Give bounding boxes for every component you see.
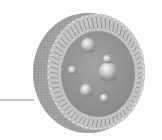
lipid-head — [97, 117, 100, 120]
lipid-head — [53, 97, 56, 100]
lipid-head — [60, 60, 63, 63]
lipid-head — [95, 127, 98, 130]
lipid-head — [129, 48, 132, 51]
lipid-head — [141, 82, 144, 85]
lipid-head — [72, 21, 75, 24]
lipid-head — [104, 15, 107, 18]
lipid-head — [75, 36, 78, 39]
lipid-head — [53, 44, 56, 47]
lipid-head — [108, 30, 111, 33]
lipid-head — [58, 77, 61, 80]
particle-sphere — [100, 94, 108, 102]
lipid-head — [104, 126, 107, 129]
lipid-head — [81, 16, 84, 19]
lipid-head — [141, 59, 144, 62]
lipid-head — [85, 15, 88, 18]
lipid-head — [124, 41, 127, 44]
lipid-head — [61, 31, 64, 34]
lipid-head — [81, 125, 84, 128]
particle-sphere — [99, 62, 117, 80]
lipid-head — [117, 120, 120, 123]
lipid-head — [113, 123, 116, 126]
lipid-head — [134, 81, 137, 84]
lipid-head — [142, 76, 145, 79]
lipid-head — [142, 71, 145, 74]
lipid-head — [95, 14, 98, 17]
lipid-head — [65, 48, 68, 51]
lipid-head — [140, 54, 143, 57]
lipid-head — [72, 120, 75, 123]
particle-sphere — [80, 84, 92, 96]
lipid-head — [63, 94, 66, 97]
lipid-head — [134, 86, 137, 89]
lipid-head — [117, 21, 120, 24]
lipid-head — [64, 27, 67, 30]
lipid-head — [100, 117, 103, 120]
lipid-head — [47, 71, 50, 74]
lipid-head — [76, 18, 79, 21]
particle-sphere — [68, 66, 76, 74]
lipid-head — [68, 24, 71, 27]
lipid-head — [86, 30, 89, 33]
lipid-head — [69, 41, 72, 44]
lipid-head — [104, 29, 107, 32]
lipid-head — [72, 38, 75, 41]
lipid-head — [85, 126, 88, 129]
lipid-head — [93, 117, 96, 120]
lipid-tail — [109, 18, 110, 31]
lipid-head — [134, 60, 137, 63]
lipid-head — [131, 94, 134, 97]
lipid-head — [108, 115, 111, 118]
particle-sphere — [103, 55, 111, 63]
lipid-head — [115, 33, 118, 36]
lipid-head — [79, 33, 82, 36]
lipid-head — [128, 110, 131, 113]
lipid-head — [132, 90, 135, 93]
lipid-head — [69, 104, 72, 107]
lipid-head — [58, 73, 61, 76]
lipid-head — [111, 32, 114, 35]
lipid-head — [60, 86, 63, 89]
lipid-head — [121, 38, 124, 41]
lipid-head — [49, 54, 52, 57]
lipid-head — [55, 39, 58, 42]
lipid-head — [59, 64, 62, 67]
lipid-head — [90, 14, 93, 17]
lipid-head — [115, 112, 118, 115]
lipid-head — [142, 65, 145, 68]
lipid-head — [61, 110, 64, 113]
lipid-head — [121, 117, 124, 120]
lipid-head — [136, 44, 139, 47]
lipid-head — [140, 87, 143, 90]
lipid-head — [58, 68, 61, 71]
lipid-head — [125, 27, 128, 30]
lipid-head — [126, 101, 129, 104]
lipid-head — [118, 36, 121, 39]
lipid-head — [131, 52, 134, 55]
lipid-head — [51, 49, 54, 52]
lipid-head — [135, 73, 138, 76]
lipid-head — [48, 82, 51, 85]
lipid-head — [49, 87, 52, 90]
lipid-head — [51, 92, 54, 95]
lipid-head — [131, 35, 134, 38]
lipid-head — [135, 68, 138, 71]
lipid-head — [125, 114, 128, 117]
lipid-head — [61, 56, 64, 59]
lipid-head — [100, 28, 103, 31]
lipid-head — [67, 44, 70, 47]
lipid-head — [99, 14, 102, 17]
lipid-head — [104, 116, 107, 119]
lipid-head — [64, 114, 67, 117]
lipid-head — [65, 97, 68, 100]
lipid-head — [93, 28, 96, 31]
lipid-head — [55, 102, 58, 105]
lipid-head — [113, 18, 116, 21]
lipid-head — [72, 107, 75, 110]
lipid-head — [134, 64, 137, 67]
lipid-head — [111, 114, 114, 117]
lipid-head — [89, 116, 92, 119]
lipid-head — [124, 104, 127, 107]
lipid-head — [121, 107, 124, 110]
lipid-head — [48, 59, 51, 62]
